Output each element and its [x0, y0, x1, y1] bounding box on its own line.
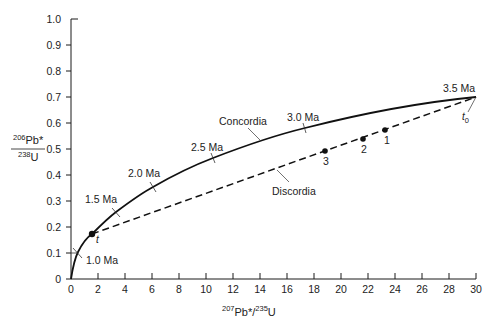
- concordia-leader: [248, 128, 261, 141]
- age-label-2-0: 2.0 Ma: [128, 167, 160, 179]
- data-point-2: [360, 136, 366, 142]
- x-tick-label: 8: [176, 283, 182, 295]
- y-axis-label: 206Pb* 238U: [11, 133, 45, 163]
- x-tick-label: 18: [308, 283, 320, 295]
- age-label-2-5: 2.5 Ma: [191, 141, 223, 153]
- x-tick-label: 6: [149, 283, 155, 295]
- y-tick-label: 0: [55, 273, 61, 285]
- age-label-3-0: 3.0 Ma: [287, 111, 319, 123]
- point-label-3: 3: [323, 155, 329, 167]
- concordia-diagram: 0 0.1 0.2 0.3 0.4 0.5 0.6 0.7 0.8 0.9 1.…: [0, 0, 493, 326]
- x-tick-label: 2: [95, 283, 101, 295]
- x-tick-label: 22: [362, 283, 374, 295]
- svg-text:238U: 238U: [18, 150, 39, 163]
- y-axis: [66, 19, 78, 279]
- lower-intercept-point: [89, 231, 95, 237]
- data-point-1: [382, 127, 388, 133]
- y-tick-label: 0.4: [46, 169, 61, 181]
- x-tick-label: 24: [389, 283, 401, 295]
- y-tick-label: 0.1: [46, 247, 61, 259]
- y-tick-label: 0.9: [46, 39, 61, 51]
- y-tick-label: 0.3: [46, 195, 61, 207]
- y-tick-labels: 0 0.1 0.2 0.3 0.4 0.5 0.6 0.7 0.8 0.9 1.…: [46, 13, 61, 285]
- age-label-1-0: 1.0 Ma: [86, 254, 118, 266]
- x-tick-label: 20: [335, 283, 347, 295]
- x-tick-label: 16: [281, 283, 293, 295]
- y-tick-label: 0.2: [46, 221, 61, 233]
- x-tick-label: 10: [200, 283, 212, 295]
- t-label: t: [96, 234, 100, 245]
- age-label-1-5: 1.5 Ma: [85, 193, 117, 205]
- age-label-3-5: 3.5 Ma: [443, 82, 475, 94]
- y-tick-label: 0.6: [46, 117, 61, 129]
- age-labels: 1.0 Ma 1.5 Ma 2.0 Ma 2.5 Ma 3.0 Ma 3.5 M…: [85, 82, 475, 266]
- x-tick-label: 4: [122, 283, 128, 295]
- discordia-points: 3 2 1: [322, 127, 390, 167]
- point-label-1: 1: [384, 134, 390, 146]
- x-axis-label: 207Pb*/235U: [222, 304, 276, 318]
- x-tick-label: 12: [227, 283, 239, 295]
- x-tick-label: 0: [68, 283, 74, 295]
- y-tick-label: 1.0: [46, 13, 61, 25]
- x-tick-labels: 0 2 4 6 8 10 12 14 16 18 20 22 24 26 28 …: [68, 283, 482, 295]
- point-label-2: 2: [361, 143, 367, 155]
- y-tick-label: 0.7: [46, 91, 61, 103]
- x-tick-label: 30: [470, 283, 482, 295]
- discordia-label: Discordia: [272, 185, 316, 197]
- x-tick-label: 14: [254, 283, 266, 295]
- x-tick-label: 28: [443, 283, 455, 295]
- data-point-3: [322, 148, 328, 154]
- y-tick-label: 0.5: [46, 143, 61, 155]
- t0-label: t0: [462, 111, 469, 125]
- svg-text:206Pb*: 206Pb*: [13, 133, 44, 146]
- concordia-label: Concordia: [219, 115, 267, 127]
- y-tick-label: 0.8: [46, 65, 61, 77]
- x-axis: [71, 273, 476, 279]
- discordia-line: [92, 97, 476, 234]
- x-tick-label: 26: [416, 283, 428, 295]
- discordia-leader: [277, 170, 289, 182]
